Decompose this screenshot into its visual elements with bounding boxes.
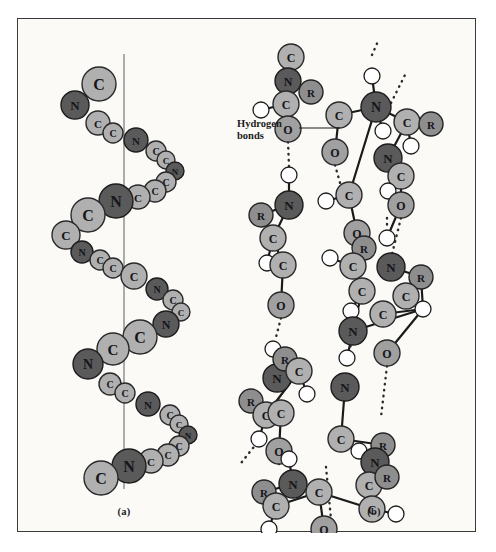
- atom-o: O: [311, 516, 337, 533]
- atom-c: C: [394, 109, 420, 135]
- atom-h: [339, 350, 355, 366]
- atom-h: [281, 451, 297, 467]
- atom-c: C: [115, 383, 135, 403]
- atom-r: R: [419, 112, 443, 136]
- atom-h: [281, 167, 297, 183]
- atom-c: C: [121, 263, 147, 289]
- atom-o: O: [322, 139, 348, 165]
- atom-h: [403, 138, 419, 154]
- atom-r: R: [299, 80, 323, 104]
- atom-c: C: [326, 102, 352, 128]
- alpha-helix-diagram: CNCCNCCNCCCNCCNCCCNCCNCCNCCNCCNCCCNC: [18, 19, 231, 533]
- atom-h: [261, 521, 277, 533]
- atom-n: N: [361, 92, 391, 122]
- panel-beta-sheet: CNRCONRCCONRCRCCONRCCOCOCORCCNNCRNCRCNCR…: [231, 19, 477, 531]
- atom-c: C: [328, 426, 354, 452]
- atom-h: [375, 123, 391, 139]
- atom-h: [388, 506, 404, 522]
- hydrogen-bonds-label-line1: Hydrogen: [237, 118, 282, 129]
- atom-c: C: [82, 67, 116, 101]
- atom-c: C: [393, 283, 419, 309]
- atom-n: N: [377, 253, 405, 281]
- atom-c: C: [370, 301, 396, 327]
- hydrogen-bonds-label: Hydrogen bonds: [237, 118, 299, 143]
- atom-n: N: [136, 392, 160, 416]
- beta-sheet-diagram: CNRCONRCCONRCRCCONRCCOCOCORCCNNCRNCRCNCR…: [231, 19, 477, 533]
- hydrogen-bond: [288, 142, 289, 167]
- hydrogen-bond: [275, 318, 281, 341]
- atom-c: C: [278, 44, 304, 70]
- atom-n: N: [331, 373, 359, 401]
- atom-n: N: [73, 349, 103, 379]
- atom-c: C: [273, 91, 299, 117]
- atom-c: C: [263, 493, 289, 519]
- atom-c: C: [103, 123, 123, 143]
- atom-o: O: [268, 292, 294, 318]
- atom-h: [318, 193, 334, 209]
- atom-n: N: [275, 68, 301, 94]
- atom-h: [415, 301, 431, 317]
- panel-caption-b: (b): [367, 506, 380, 517]
- atom-c: C: [340, 253, 366, 279]
- atom-h: [251, 431, 267, 447]
- atom-c: C: [84, 461, 118, 495]
- atom-h: [299, 386, 315, 402]
- atom-n: N: [61, 91, 89, 119]
- atom-c: C: [336, 182, 362, 208]
- atom-c: C: [268, 400, 294, 426]
- atom-h: [379, 230, 395, 246]
- atom-n: N: [339, 317, 367, 345]
- atom-c: C: [103, 258, 123, 278]
- panel-caption-a: (a): [118, 506, 131, 517]
- atom-r: R: [249, 203, 273, 227]
- atom-c: C: [260, 225, 286, 251]
- atom-c: C: [286, 358, 312, 384]
- atom-n: N: [279, 470, 307, 498]
- hydrogen-bonds-label-line2: bonds: [237, 130, 264, 141]
- atom-c: C: [349, 278, 375, 304]
- atom-o: O: [374, 340, 400, 366]
- atom-h: [253, 102, 269, 118]
- atom-n: N: [275, 191, 303, 219]
- atom-n: N: [124, 128, 148, 152]
- atom-h: [364, 68, 380, 84]
- figure-frame: CNCCNCCNCCCNCCNCCCNCCNCCNCCNCCNCCCNC CNR…: [17, 18, 476, 532]
- atom-h: [322, 250, 338, 266]
- hydrogen-bond: [372, 39, 379, 55]
- panel-alpha-helix: CNCCNCCNCCCNCCNCCCNCCNCCNCCNCCNCCCNC: [18, 19, 231, 531]
- hydrogen-bond: [381, 366, 387, 417]
- atom-r: R: [375, 465, 399, 489]
- atom-c: C: [306, 479, 332, 505]
- atom-o: O: [388, 192, 414, 218]
- figure-root: CNCCNCCNCCCNCCNCCCNCCNCCNCCNCCNCCCNC CNR…: [0, 0, 496, 552]
- atom-c: C: [270, 252, 296, 278]
